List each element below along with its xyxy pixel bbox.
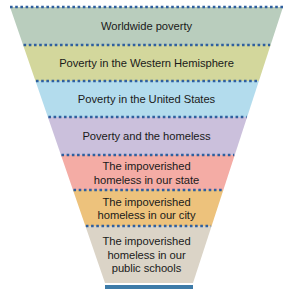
funnel-label-impoverished-homeless-city: The impoverished homeless in our city — [0, 196, 293, 223]
funnel-label-impoverished-homeless-public-schools: The impoverished homeless in our public … — [0, 235, 293, 276]
funnel-label-worldwide-poverty: Worldwide poverty — [0, 20, 293, 34]
funnel-diagram: Worldwide povertyPoverty in the Western … — [0, 0, 293, 299]
funnel-label-impoverished-homeless-state: The impoverished homeless in our state — [0, 160, 293, 187]
funnel-label-layer: Worldwide povertyPoverty in the Western … — [0, 0, 293, 299]
funnel-label-poverty-united-states: Poverty in the United States — [0, 93, 293, 107]
funnel-label-poverty-and-homeless: Poverty and the homeless — [0, 130, 293, 144]
funnel-label-poverty-western-hemisphere: Poverty in the Western Hemisphere — [0, 57, 293, 71]
